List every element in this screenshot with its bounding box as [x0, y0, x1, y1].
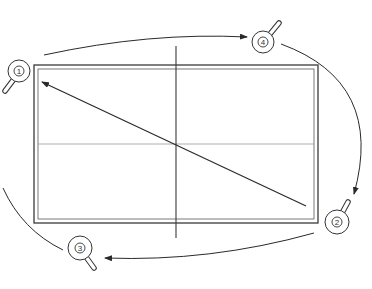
player-2-paddle-icon: 2 [325, 202, 349, 234]
table [34, 46, 318, 238]
player-4-label: 4 [261, 38, 266, 47]
player-1-label: 1 [17, 67, 22, 76]
player-4-paddle-icon: 4 [252, 23, 279, 53]
player-1-paddle-icon: 1 [5, 60, 30, 91]
arrow-2-to-3 [105, 233, 314, 258]
rotation-diagram: 1 4 2 3 [0, 0, 372, 289]
player-3-label: 3 [78, 244, 83, 253]
player-3-paddle-icon: 3 [68, 236, 94, 268]
player-2-label: 2 [335, 218, 340, 227]
arrow-1-to-4 [44, 36, 247, 55]
arrow-4-to-2 [281, 44, 361, 194]
